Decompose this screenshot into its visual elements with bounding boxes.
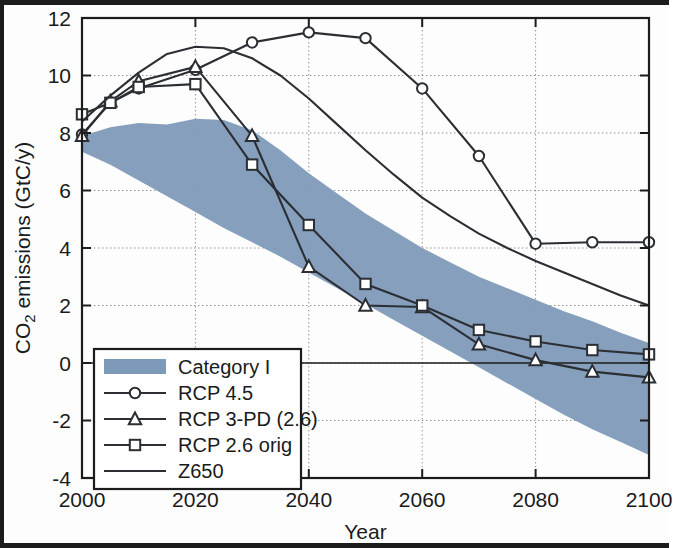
data-point-marker: [417, 83, 427, 93]
legend-label-rcp-26-orig: RCP 2.6 orig: [178, 434, 292, 456]
data-point-marker: [247, 159, 257, 169]
data-point-marker: [360, 279, 370, 289]
data-point-marker: [587, 237, 597, 247]
data-point-marker: [360, 33, 370, 43]
legend-label-category-i: Category I: [178, 356, 270, 378]
data-point-marker: [304, 220, 314, 230]
legend-label-rcp-45: RCP 4.5: [178, 382, 253, 404]
x-tick-label: 2020: [172, 488, 219, 511]
data-point-marker: [530, 238, 540, 248]
y-axis-title: CO2 emissions (GtC/y): [11, 142, 38, 355]
data-point-marker: [134, 82, 144, 92]
data-point-marker: [417, 300, 427, 310]
x-tick-label: 2000: [59, 488, 106, 511]
y-tick-label: 12: [48, 7, 71, 30]
x-axis-title: Year: [344, 520, 386, 543]
x-tick-label: 2100: [626, 488, 673, 511]
data-point-marker: [247, 37, 257, 47]
legend-swatch-category-i: [104, 359, 166, 374]
x-tick-label: 2080: [512, 488, 559, 511]
y-tick-label: -4: [52, 467, 71, 490]
legend-marker: [130, 440, 140, 450]
data-point-marker: [530, 336, 540, 346]
data-point-marker: [304, 27, 314, 37]
x-tick-label: 2060: [399, 488, 446, 511]
legend-marker: [130, 388, 140, 398]
co2-emissions-chart: -4-2024681012200020202040206020802100Yea…: [4, 5, 673, 548]
y-tick-label: 0: [59, 352, 71, 375]
y-tick-label: 4: [59, 237, 71, 260]
data-point-marker: [474, 151, 484, 161]
legend-label-z650: Z650: [178, 460, 224, 482]
data-point-marker: [587, 345, 597, 355]
legend-label-rcp-3-pd-26: RCP 3-PD (2.6): [178, 408, 318, 430]
y-tick-label: 10: [48, 64, 71, 87]
y-tick-label: -2: [52, 409, 71, 432]
data-point-marker: [474, 325, 484, 335]
y-tick-label: 8: [59, 122, 71, 145]
x-tick-label: 2040: [285, 488, 332, 511]
y-tick-label: 6: [59, 179, 71, 202]
data-point-marker: [190, 79, 200, 89]
y-tick-label: 2: [59, 294, 71, 317]
